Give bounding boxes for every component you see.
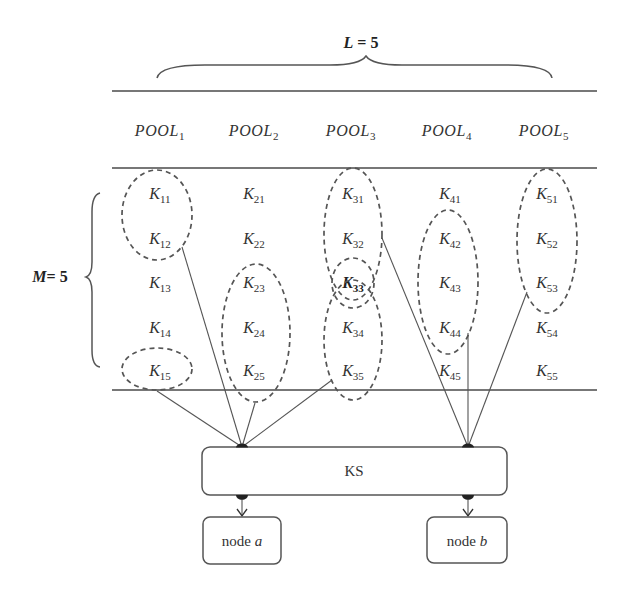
key-k45: K45 [438, 362, 461, 382]
key-k21: K21 [242, 185, 265, 205]
connector-k15-to-node-a [157, 391, 242, 447]
key-k25: K25 [242, 362, 265, 382]
m-dimension-label: M= 5 [31, 268, 67, 285]
m-brace [86, 193, 100, 367]
key-k11: K11 [148, 185, 170, 205]
key-k15: K15 [148, 362, 171, 382]
group-k33-k35 [324, 280, 382, 400]
key-k35: K35 [341, 362, 364, 382]
key-k23: K23 [242, 274, 265, 294]
pool-header-1: POOL1 [134, 122, 185, 142]
key-k34: K34 [341, 319, 364, 339]
key-k31: K31 [341, 185, 364, 205]
pool-header-5: POOL5 [518, 122, 569, 142]
key-k41: K41 [438, 185, 461, 205]
key-k33-highlighted: K33 [341, 274, 364, 294]
pool-header-2: POOL2 [228, 122, 279, 142]
key-k55: K55 [535, 362, 558, 382]
key-k12: K12 [148, 230, 171, 250]
l-brace [157, 56, 552, 78]
key-k53: K53 [535, 274, 558, 294]
arrow-down-icon [237, 499, 247, 516]
connector-k32-to-node-b [382, 238, 468, 447]
key-k54: K54 [535, 319, 558, 339]
key-k14: K14 [148, 319, 171, 339]
arrow-down-icon [463, 499, 473, 516]
key-k42: K42 [438, 230, 461, 250]
connector-k23k25-to-node-a [242, 403, 255, 447]
key-pool-diagram: L = 5 POOL1 POOL2 POOL3 POOL4 POOL5 M= 5… [0, 0, 629, 597]
connector-k12-to-node-a [182, 247, 242, 447]
key-k13: K13 [148, 274, 171, 294]
pool-header-4: POOL4 [421, 122, 472, 142]
key-k43: K43 [438, 274, 461, 294]
pool-header-3: POOL3 [325, 122, 376, 142]
junction-dot-in-b [462, 444, 474, 448]
key-k24: K24 [242, 319, 265, 339]
key-k32: K32 [341, 230, 364, 250]
node-a-label: node a [222, 533, 262, 549]
connector-k53-to-node-b [468, 292, 527, 447]
ks-label: KS [344, 463, 363, 479]
key-k44: K44 [438, 319, 461, 339]
key-k52: K52 [535, 230, 558, 250]
l-dimension-label: L = 5 [343, 34, 379, 51]
key-k51: K51 [535, 185, 558, 205]
node-b-label: node b [447, 533, 488, 549]
key-k22: K22 [242, 230, 265, 250]
